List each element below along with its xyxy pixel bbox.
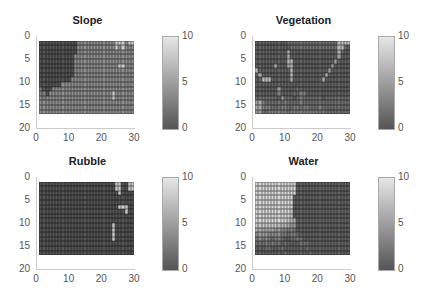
colorbar-tick-label: 10 — [182, 30, 193, 41]
colorbar-tick-label: 0 — [182, 122, 188, 133]
y-tick-label: 0 — [10, 171, 30, 182]
colorbar — [162, 36, 179, 130]
chart-panel-water: Water0510152001020300510 — [216, 141, 426, 291]
x-tick-label: 0 — [242, 273, 262, 284]
colorbar — [162, 177, 179, 271]
heatmap-cell — [347, 110, 350, 115]
y-tick-label: 10 — [226, 217, 246, 228]
y-tick-label: 10 — [10, 76, 30, 87]
y-tick-label: 15 — [226, 240, 246, 251]
colorbar-tick-label: 5 — [182, 76, 188, 87]
y-tick-label: 10 — [226, 76, 246, 87]
heatmap-grid — [255, 182, 350, 256]
y-tick-label: 0 — [226, 171, 246, 182]
colorbar-tick-label: 5 — [398, 217, 404, 228]
heatmap-grid — [255, 41, 350, 115]
x-tick-label: 10 — [275, 273, 295, 284]
chart-title: Water — [216, 155, 391, 167]
colorbar-tick-label: 0 — [398, 122, 404, 133]
y-tick-label: 5 — [226, 194, 246, 205]
y-tick-label: 5 — [10, 194, 30, 205]
colorbar — [378, 177, 395, 271]
chart-title: Vegetation — [216, 14, 391, 26]
x-tick-label: 20 — [91, 273, 111, 284]
y-tick-label: 5 — [10, 53, 30, 64]
heatmap-cell — [347, 251, 350, 256]
x-tick-label: 10 — [59, 273, 79, 284]
heatmap-grid — [39, 182, 134, 256]
colorbar-tick-label: 10 — [398, 171, 409, 182]
y-tick-label: 15 — [10, 99, 30, 110]
colorbar-tick-label: 0 — [182, 263, 188, 274]
y-tick-label: 0 — [226, 30, 246, 41]
colorbar-tick-label: 0 — [398, 263, 404, 274]
chart-panel-rubble: Rubble0510152001020300510 — [0, 141, 213, 291]
heatmap-cell — [131, 110, 134, 115]
colorbar-tick-label: 5 — [398, 76, 404, 87]
colorbar — [378, 36, 395, 130]
colorbar-tick-label: 10 — [398, 30, 409, 41]
chart-title: Rubble — [0, 155, 175, 167]
y-tick-label: 0 — [10, 30, 30, 41]
heatmap-grid — [39, 41, 134, 115]
chart-panel-slope: Slope0510152001020300510 — [0, 0, 213, 150]
heatmap-cell — [131, 251, 134, 256]
x-tick-label: 30 — [124, 273, 144, 284]
colorbar-tick-label: 10 — [182, 171, 193, 182]
y-tick-label: 5 — [226, 53, 246, 64]
x-tick-label: 0 — [26, 273, 46, 284]
x-tick-label: 30 — [340, 273, 360, 284]
colorbar-tick-label: 5 — [182, 217, 188, 228]
y-tick-label: 10 — [10, 217, 30, 228]
y-tick-label: 15 — [10, 240, 30, 251]
x-tick-label: 20 — [307, 273, 327, 284]
y-tick-label: 15 — [226, 99, 246, 110]
chart-panel-vegetation: Vegetation0510152001020300510 — [216, 0, 426, 150]
chart-title: Slope — [0, 14, 175, 26]
